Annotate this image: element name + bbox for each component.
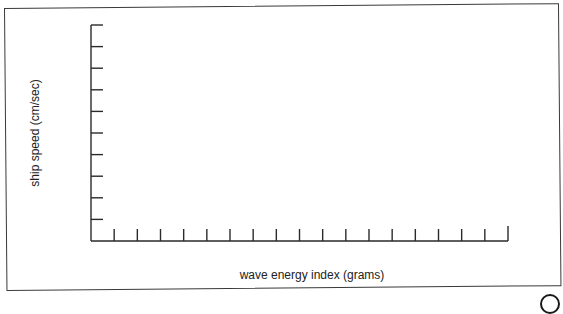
x-axis-label: wave energy index (grams) — [240, 268, 385, 282]
y-axis-label: ship speed (cm/sec) — [28, 79, 42, 186]
corner-circle-mark — [540, 294, 560, 314]
